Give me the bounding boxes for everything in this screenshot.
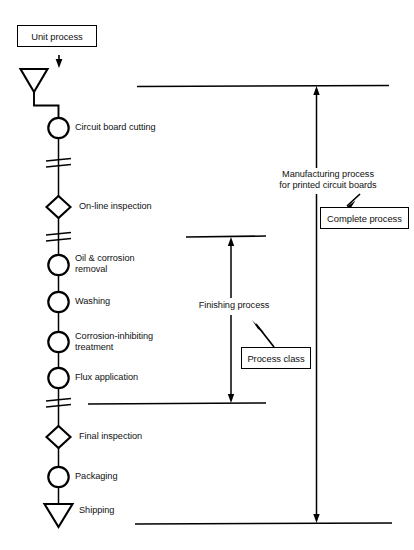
node-label-packaging: Packaging: [75, 471, 117, 482]
manufacturing-bracket-arrowhead-top: [313, 86, 319, 95]
node-shape-flux-application: [48, 368, 68, 388]
finishing-bracket-arrowhead-bottom: [228, 394, 234, 403]
complete-process-leader-line: [347, 194, 360, 206]
finishing-bracket-arrowhead-top: [228, 237, 234, 246]
node-shape-packaging: [48, 467, 68, 487]
bracket-label-manufacturing-process: Manufacturing process for printed circui…: [266, 169, 390, 191]
node-label-final-inspection: Final inspection: [79, 431, 142, 442]
bracket-label-finishing-process: Finishing process: [189, 300, 279, 311]
complete-process-callout-box[interactable]: Complete process: [320, 207, 409, 229]
unit-process-box[interactable]: Unit process: [17, 25, 97, 47]
start-to-first-connector: [34, 92, 59, 118]
node-shape-washing: [48, 292, 68, 312]
node-shape-shipping: [45, 504, 73, 527]
manufacturing-bracket-arrowhead-bottom: [313, 514, 319, 523]
node-label-corrosion-inhibiting-treatment: Corrosion-inhibiting treatment: [75, 331, 153, 354]
start-triangle-icon: [21, 69, 48, 92]
node-label-flux-application: Flux application: [75, 372, 138, 383]
flowchart-vector-layer: [0, 0, 414, 550]
flowchart-canvas: Unit process Circuit board cutting On-li…: [0, 0, 414, 550]
process-class-callout-box[interactable]: Process class: [241, 347, 311, 369]
node-label-circuit-board-cutting: Circuit board cutting: [75, 122, 156, 133]
node-label-shipping: Shipping: [79, 505, 114, 516]
node-shape-final-inspection: [47, 426, 71, 448]
node-shape-on-line-inspection: [47, 196, 71, 218]
unit-process-arrowhead: [56, 59, 63, 68]
node-shape-oil-corrosion-removal: [48, 255, 68, 275]
node-shape-corrosion-inhibiting-treatment: [48, 332, 68, 352]
node-label-washing: Washing: [75, 296, 110, 307]
node-label-on-line-inspection: On-line inspection: [79, 201, 152, 212]
node-shape-circuit-board-cutting: [48, 118, 68, 138]
node-label-oil-corrosion-removal: Oil & corrosion removal: [75, 253, 135, 276]
